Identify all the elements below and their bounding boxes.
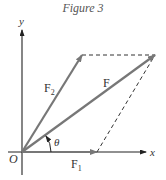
vector-F [22,55,155,152]
vector-diagram [0,0,166,180]
F2-label: F2 [44,82,55,97]
y-axis-label: y [19,16,24,27]
F-label: F [103,77,110,89]
dashed-right-side [97,55,155,152]
x-axis-label: x [150,147,155,158]
theta-arc [46,136,51,152]
F1-label: F1 [71,158,82,173]
origin-label: O [9,153,18,165]
vector-F2 [22,55,82,152]
theta-label: θ [54,137,59,148]
